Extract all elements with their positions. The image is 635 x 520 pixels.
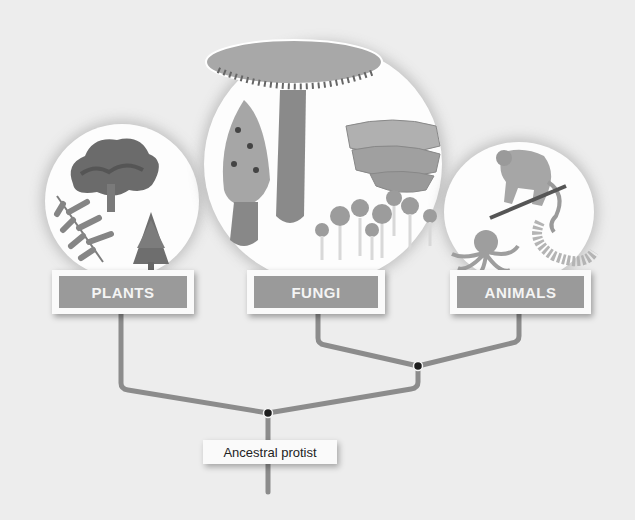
phylogeny-diagram: PLANTS FUNGI ANIMALS Ancestral protist [0,0,635,520]
root-node [264,409,273,418]
ancestral-protist-label: Ancestral protist [203,440,337,464]
fungi-label-text: FUNGI [254,276,378,308]
fungi-animals-stem [268,366,418,413]
fungi-label: FUNGI [247,270,385,314]
plants-label: PLANTS [52,270,194,314]
fungi-animals-node [414,362,423,371]
fungi-branch [318,313,418,366]
plants-branch [121,312,268,413]
animals-branch [418,313,519,366]
animals-label: ANIMALS [450,270,591,314]
animals-label-text: ANIMALS [457,276,584,308]
plants-label-text: PLANTS [59,276,187,308]
